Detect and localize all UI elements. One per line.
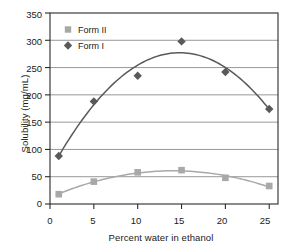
data-markers: [55, 37, 274, 197]
data-point-form-i-10: [133, 72, 141, 80]
data-point-form-ii-15: [178, 167, 185, 174]
data-point-form-ii-1: [55, 191, 62, 198]
data-point-form-ii-25: [266, 183, 273, 190]
solubility-chart: Solubility (mg/mL) Percent water in etha…: [0, 0, 286, 252]
legend-markers: [64, 26, 72, 49]
data-point-form-i-1: [55, 152, 63, 160]
data-point-form-ii-5: [91, 178, 98, 185]
data-point-form-ii-10: [134, 169, 141, 176]
plot-frame: [50, 13, 278, 204]
trend-curves: [59, 53, 269, 194]
trend-curve-form-ii: [59, 171, 269, 194]
legend-square-marker: [65, 26, 71, 32]
gridlines: [50, 40, 278, 176]
legend-diamond-marker: [64, 41, 72, 49]
trend-curve-form-i: [59, 53, 269, 156]
y-axis-ticks: [45, 13, 50, 204]
x-axis-ticks: [50, 204, 269, 209]
data-point-form-ii-20: [222, 175, 229, 182]
plot-border: [50, 13, 278, 204]
data-point-form-i-15: [177, 37, 185, 45]
data-point-form-i-5: [90, 97, 98, 105]
plot-canvas: [0, 0, 286, 252]
